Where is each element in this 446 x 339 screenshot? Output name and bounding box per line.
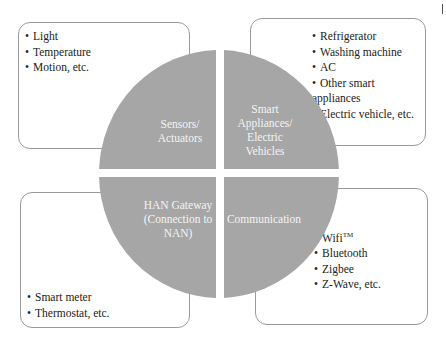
quadrant-label-appliances: Smart Appliances/ Electric Vehicles [224, 102, 306, 158]
quadrant-circle [0, 0, 446, 339]
quadrant-label-communication: Communication [224, 212, 304, 226]
quadrant-label-sensors: Sensors/ Actuators [140, 117, 220, 145]
quadrant-label-gateway: HAN Gateway (Connection to NAN) [133, 198, 223, 240]
